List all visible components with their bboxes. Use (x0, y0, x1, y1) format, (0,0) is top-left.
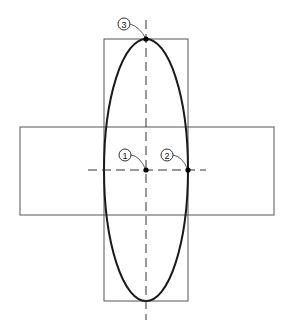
point-center (143, 167, 148, 172)
callout-2: 2 (161, 149, 188, 170)
ellipse-construction-diagram: 1 2 3 (0, 0, 288, 331)
callout-label-3: 3 (121, 20, 126, 30)
point-major-axis-end (143, 36, 148, 41)
point-minor-axis-end (185, 167, 190, 172)
callout-label-2: 2 (164, 151, 169, 161)
callout-3: 3 (118, 18, 146, 39)
leader-line-2 (173, 155, 188, 170)
leader-line-1 (131, 155, 146, 170)
leader-line-3 (130, 24, 146, 39)
callout-1: 1 (119, 149, 146, 170)
callout-label-1: 1 (122, 151, 127, 161)
